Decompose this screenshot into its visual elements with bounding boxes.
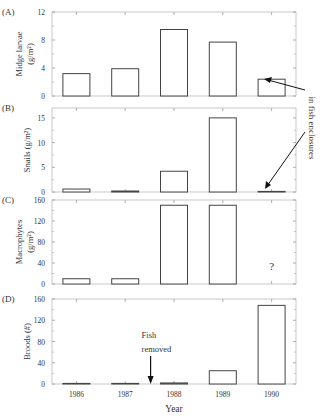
x-tick-label: 1989 <box>215 390 230 399</box>
x-tick-label: 1986 <box>69 390 84 399</box>
bar-1987 <box>112 279 139 284</box>
x-tick-label: 1987 <box>118 390 133 399</box>
bar-1989 <box>209 205 236 284</box>
bar-1988 <box>161 383 188 384</box>
bar-1987 <box>112 191 139 192</box>
y-axis-label-line1: Midge larvae <box>14 31 24 76</box>
x-axis-label: Year <box>165 404 183 414</box>
x-tick-label: 1990 <box>264 390 279 399</box>
fish-removed-label-line2: removed <box>142 344 172 354</box>
bar-1988 <box>161 171 188 192</box>
bar-1986 <box>63 279 90 284</box>
bar-1986 <box>63 189 90 192</box>
y-tick-label: 8 <box>41 36 45 45</box>
bar-1988 <box>161 30 188 97</box>
bar-1987 <box>112 69 139 96</box>
bar-1986 <box>63 74 90 96</box>
y-tick-label: 10 <box>38 139 46 148</box>
panel-label: (D) <box>2 294 15 304</box>
y-axis-label-line1: Macrophytes <box>14 220 24 264</box>
y-tick-label: 40 <box>38 259 46 268</box>
y-tick-label: 15 <box>38 114 46 123</box>
y-tick-label: 120 <box>34 316 46 325</box>
bar-1989 <box>209 118 236 192</box>
arrow-head-icon <box>148 376 154 384</box>
y-tick-label: 80 <box>38 338 46 347</box>
y-tick-label: 0 <box>41 92 45 101</box>
fish-removed-label-line1: Fish <box>142 330 157 340</box>
fish-enclosure-annotation: in fish enclosures <box>307 97 317 160</box>
y-tick-label: 4 <box>41 64 45 73</box>
bar-1987 <box>112 383 139 384</box>
y-tick-label: 120 <box>34 217 46 226</box>
bar-1989 <box>209 42 236 96</box>
y-axis-label-line2: (g/m²) <box>25 231 35 253</box>
y-tick-label: 12 <box>38 8 46 17</box>
y-tick-label: 40 <box>38 359 46 368</box>
bar-1990 <box>258 305 285 384</box>
panel-label: (A) <box>2 7 15 17</box>
y-axis-label: Broods (#) <box>22 323 32 360</box>
y-tick-label: 80 <box>38 238 46 247</box>
y-tick-label: 5 <box>41 163 45 172</box>
bar-1990 <box>258 79 285 96</box>
y-tick-label: 0 <box>41 280 45 289</box>
y-axis-label: Snails (g/m²) <box>22 128 32 173</box>
x-tick-label: 1988 <box>167 390 182 399</box>
y-tick-label: 160 <box>34 295 46 304</box>
enclosure-arrow-b <box>267 132 305 186</box>
panel-label: (C) <box>2 195 14 205</box>
bar-1986 <box>63 383 90 384</box>
y-axis-label-line2: (g/m²) <box>25 43 35 65</box>
unknown-value-annotation: ? <box>269 260 274 272</box>
panel-label: (B) <box>2 103 14 113</box>
bar-1989 <box>209 371 236 384</box>
bar-1990 <box>258 191 285 192</box>
bar-1988 <box>161 205 188 284</box>
multi-panel-bar-chart: 04812(A)Midge larvae(g/m²)051015(B)Snail… <box>0 0 322 419</box>
y-tick-label: 160 <box>34 196 46 205</box>
y-tick-label: 0 <box>41 380 45 389</box>
